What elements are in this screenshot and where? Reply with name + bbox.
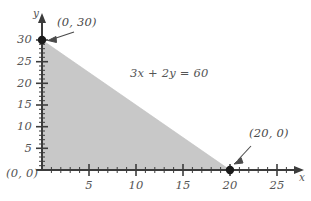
y-axis-label: y [33,8,39,19]
y-tick-label-15: 15 [12,99,32,111]
x-axis-label: x [299,172,305,183]
y-tick-label-30: 30 [12,34,32,46]
point-marker-0-30 [38,36,46,44]
x-tick-label-5: 5 [79,180,99,192]
origin-label: (0, 0) [6,168,38,180]
point-marker-20-0 [226,166,234,174]
y-tick-label-20: 20 [12,78,32,90]
y-tick-label-25: 25 [12,56,32,68]
y-axis-arrowhead [38,13,46,23]
x-tick-label-20: 20 [220,180,240,192]
y-tick-label-10: 10 [12,121,32,133]
plot-canvas [0,0,311,201]
x-tick-label-25: 25 [267,180,287,192]
line-equation-label: 3x + 2y = 60 [130,68,209,80]
x-tick-label-10: 10 [126,180,146,192]
x-tick-label-15: 15 [173,180,193,192]
x-intercept-arrow [234,146,251,164]
x-intercept-label: (20, 0) [249,128,289,140]
y-tick-label-5: 5 [12,143,32,155]
y-intercept-label: (0, 30) [57,17,97,29]
graph-figure: y x 5 10 15 20 25 30 5 10 15 20 25 (0, 0… [0,0,311,201]
y-intercept-arrow [48,32,74,43]
feasible-region-shade [42,40,230,170]
